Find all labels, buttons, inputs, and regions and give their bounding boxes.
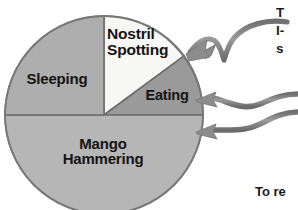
squiggle-arrow-top (186, 21, 287, 61)
wavy-arrow-bottom (196, 112, 298, 139)
pie-chart: Nostril Spotting Eating Mango Hammering … (0, 0, 298, 210)
annotation-text-top: T I- s (276, 4, 284, 57)
pie-label-mango-hammering: Mango Hammering (38, 136, 168, 167)
pie-label-eating: Eating (138, 88, 196, 103)
wavy-arrow-middle (196, 92, 298, 107)
pie-slice-sleeping[interactable] (5, 16, 104, 115)
annotation-text-bottom: To re (255, 183, 286, 200)
pie-chart-screenshot: Nostril Spotting Eating Mango Hammering … (0, 0, 298, 210)
pie-label-sleeping: Sleeping (18, 71, 96, 86)
pie-label-nostril-spotting: Nostril Spotting (107, 26, 191, 58)
